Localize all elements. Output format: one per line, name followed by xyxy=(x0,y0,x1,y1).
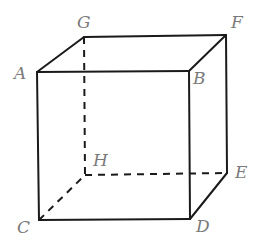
vertex-label-a: A xyxy=(12,63,26,83)
cube-diagram: ABCDEFGH xyxy=(0,0,261,249)
vertex-label-c: C xyxy=(17,217,30,237)
edge-ab xyxy=(37,71,189,72)
edge-gf xyxy=(84,35,226,37)
hidden-edges xyxy=(39,37,227,220)
vertex-labels: ABCDEFGH xyxy=(12,12,248,237)
edge-cd xyxy=(39,219,190,220)
edge-bf xyxy=(189,35,226,71)
edge-ac xyxy=(37,72,39,220)
vertex-label-b: B xyxy=(192,68,206,88)
edge-fe xyxy=(226,35,227,173)
edge-gh-hidden xyxy=(84,37,85,175)
vertex-label-f: F xyxy=(230,12,244,32)
vertex-label-d: D xyxy=(195,216,210,236)
vertex-label-e: E xyxy=(234,162,248,182)
vertex-label-h: H xyxy=(92,150,109,170)
edge-de xyxy=(190,173,227,219)
edge-ch-hidden xyxy=(39,175,85,220)
edge-he-hidden xyxy=(85,173,227,175)
edge-ag xyxy=(37,37,84,72)
vertex-label-g: G xyxy=(77,12,91,32)
edge-bd xyxy=(189,71,190,219)
visible-edges xyxy=(37,35,227,220)
